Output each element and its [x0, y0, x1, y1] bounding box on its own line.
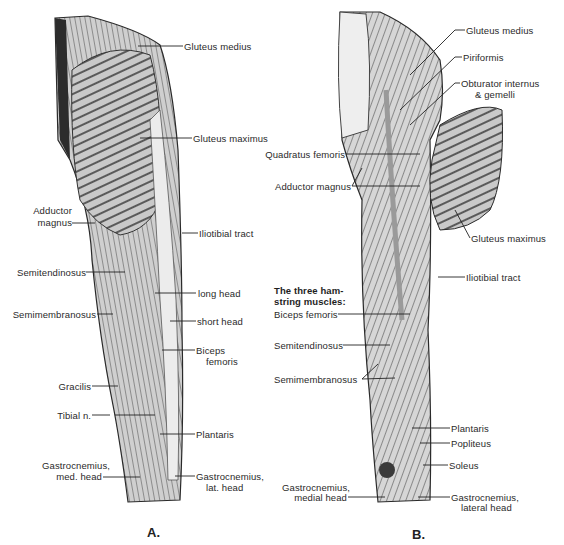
label-b-adductor-magnus: Adductor magnus — [240, 181, 351, 192]
hamstring-heading-line2: string muscles: — [274, 296, 346, 307]
label-a-gracilis: Gracilis — [20, 381, 91, 392]
label-b-quadratus-femoris: Quadratus femoris — [240, 149, 345, 160]
label-b-obturator-line2: & gemelli — [475, 89, 515, 100]
label-b-semitendinosus: Semitendinosus — [274, 340, 343, 351]
label-a-tibial-nerve: Tibial n. — [20, 410, 91, 421]
label-b-gluteus-medius: Gluteus medius — [466, 25, 533, 36]
label-a-long-head: long head — [198, 288, 241, 299]
anatomy-figure: Gluteus medius Gluteus maximus Adductor … — [0, 0, 564, 545]
label-a-gastrocnemius-lat-line2: lat. head — [206, 482, 243, 493]
label-a-short-head: short head — [197, 316, 243, 327]
label-b-piriformis: Piriformis — [463, 52, 504, 63]
label-b-gastrocnemius-med-line2: medial head — [270, 492, 347, 503]
hamstring-heading-line1: The three ham- — [274, 285, 344, 296]
label-a-biceps-femoris-line1: Biceps — [196, 345, 225, 356]
label-b-gluteus-maximus: Gluteus maximus — [471, 233, 546, 244]
label-b-biceps-femoris: Biceps femoris — [274, 309, 338, 320]
label-a-iliotibial-tract: Iliotibial tract — [199, 228, 253, 239]
label-a-semitendinosus: Semitendinosus — [0, 267, 86, 278]
label-a-plantaris: Plantaris — [196, 429, 234, 440]
label-a-adductor-magnus-line1: Adductor — [20, 205, 72, 216]
label-a-gluteus-medius: Gluteus medius — [184, 41, 251, 52]
label-b-soleus: Soleus — [449, 460, 479, 471]
panel-caption-a: A. — [147, 525, 160, 540]
label-a-gluteus-maximus: Gluteus maximus — [193, 133, 268, 144]
label-a-semimembranosus: Semimembranosus — [0, 309, 96, 320]
label-a-gastrocnemius-med-line2: med. head — [20, 471, 102, 482]
label-a-adductor-magnus-line2: magnus — [20, 217, 72, 228]
panel-caption-b: B. — [412, 527, 425, 542]
label-b-plantaris: Plantaris — [451, 423, 489, 434]
label-b-semimembranosus: Semimembranosus — [274, 374, 357, 385]
label-b-gastrocnemius-lat-line2: lateral head — [461, 502, 512, 513]
label-a-biceps-femoris-line2: femoris — [206, 356, 238, 367]
label-b-obturator-line1: Obturator internus — [461, 78, 539, 89]
label-a-gastrocnemius-lat-line1: Gastrocnemius, — [196, 471, 264, 482]
label-a-gastrocnemius-med-line1: Gastrocnemius, — [20, 460, 110, 471]
leg-a-drawing — [55, 16, 183, 502]
label-b-iliotibial-tract: Iliotibial tract — [466, 272, 520, 283]
label-b-popliteus: Popliteus — [451, 438, 491, 449]
